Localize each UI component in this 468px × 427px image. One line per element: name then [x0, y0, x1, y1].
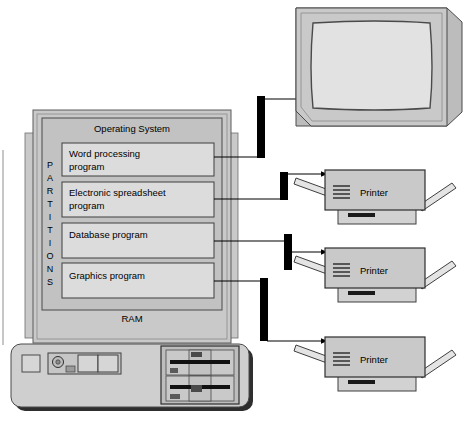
printer-2-paper-tray	[294, 256, 329, 274]
connector-bar-2	[280, 172, 288, 200]
ram-label: RAM	[121, 313, 142, 324]
printer-3-base-slot	[348, 380, 375, 384]
program-partition-word-processing: Word processing program	[62, 143, 214, 176]
disk-drive-bays	[161, 346, 239, 404]
panel-slot-left	[78, 355, 98, 372]
partitions-letter-7: O	[46, 251, 53, 261]
front-control-panel	[48, 353, 121, 374]
program-label-1-line2: program	[69, 200, 104, 211]
printer-3-label: Printer	[360, 354, 388, 365]
printer-3-paper-tray	[294, 345, 329, 363]
system-base-unit	[11, 344, 253, 411]
operating-system-label: Operating System	[94, 123, 170, 134]
program-label-0-line1: Word processing	[69, 148, 140, 159]
program-partition-database: Database program	[62, 223, 214, 258]
printer-1-label: Printer	[360, 187, 388, 198]
diagram-canvas: Operating System P A R T I T I O N S Wor…	[0, 0, 468, 427]
program-label-0-line2: program	[69, 161, 104, 172]
printer-2: Printer	[294, 248, 456, 302]
printer-1: Printer	[294, 170, 456, 224]
program-label-2-line1: Database program	[69, 229, 148, 240]
printer-1-base-slot	[348, 213, 375, 217]
disk-drive-upper[interactable]	[166, 350, 234, 375]
printer-2-label: Printer	[360, 265, 388, 276]
printer-1-paper-tray	[294, 178, 329, 196]
partitions-letter-6: I	[49, 238, 52, 248]
disk-drive-lower[interactable]	[166, 376, 234, 401]
monitor	[296, 8, 462, 126]
program-label-1-line1: Electronic spreadsheet	[69, 187, 166, 198]
program-partition-graphics: Graphics program	[62, 263, 214, 298]
partitions-letter-3: T	[47, 199, 53, 209]
indicator-light-icon	[66, 366, 75, 372]
program-partition-electronic-spreadsheet: Electronic spreadsheet program	[62, 182, 214, 217]
partitions-letter-4: I	[49, 212, 52, 222]
connector-bar-3	[284, 234, 292, 270]
partitions-letter-9: S	[47, 277, 53, 287]
partitions-letter-0: P	[47, 160, 53, 170]
memory-partitions-diagram: Operating System P A R T I T I O N S Wor…	[0, 0, 468, 427]
connector-bar-1	[257, 96, 265, 158]
dial-knob-center-icon	[56, 360, 60, 364]
power-button[interactable]	[22, 355, 40, 372]
panel-slot-right	[98, 355, 118, 372]
program-label-3-line1: Graphics program	[69, 270, 145, 281]
printer-3: Printer	[294, 337, 456, 391]
partitions-letter-1: A	[47, 173, 53, 183]
partitions-letter-2: R	[47, 186, 54, 196]
partitions-letter-8: N	[47, 264, 54, 274]
monitor-screen[interactable]	[311, 21, 432, 110]
partitions-letter-5: T	[47, 225, 53, 235]
printer-2-base-slot	[348, 291, 375, 295]
connector-bar-4	[260, 278, 268, 341]
